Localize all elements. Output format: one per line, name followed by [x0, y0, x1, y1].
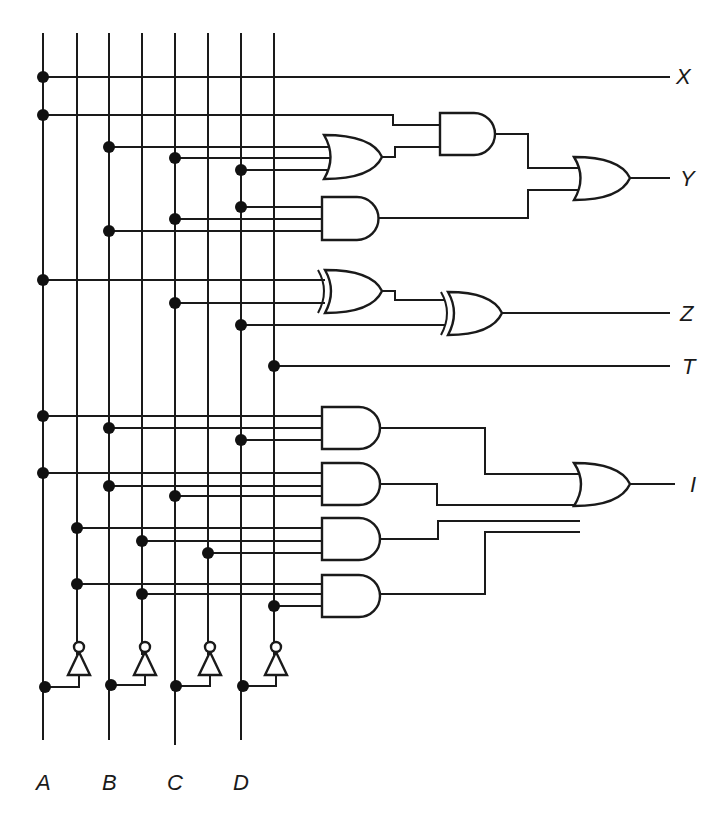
- and-gate-3: [322, 407, 380, 449]
- junction-dot: [39, 681, 51, 693]
- junction-dot: [103, 141, 115, 153]
- junction-dot: [71, 578, 83, 590]
- junction-dot: [103, 422, 115, 434]
- and-gate-6: [322, 575, 380, 617]
- not-gate-d: [265, 652, 287, 675]
- junction-dot: [71, 522, 83, 534]
- wire-xor1-to-xor2: [382, 291, 445, 300]
- junction-dot: [37, 109, 49, 121]
- junction-dot: [103, 480, 115, 492]
- and-gate-2: [322, 197, 379, 240]
- junction-dot: [136, 588, 148, 600]
- xor2-back-arc: [441, 292, 447, 335]
- junction-dot: [235, 164, 247, 176]
- xor-gate-1: [325, 270, 382, 313]
- junction-dot: [103, 225, 115, 237]
- input-label-b: B: [102, 770, 117, 796]
- wire-and3-or4: [380, 428, 580, 474]
- junction-dot: [37, 274, 49, 286]
- output-label-x: X: [676, 64, 691, 90]
- junction-dot: [105, 679, 117, 691]
- junction-dot: [268, 600, 280, 612]
- junctions: [37, 71, 280, 693]
- junction-dot: [37, 71, 49, 83]
- y-section: [43, 113, 670, 240]
- junction-dot: [202, 547, 214, 559]
- i-section: [43, 407, 675, 617]
- not-bubble-d: [271, 642, 281, 652]
- not-bubble-c: [205, 642, 215, 652]
- wire-and2-to-or3: [379, 190, 580, 218]
- input-label-c: C: [167, 770, 183, 796]
- wire-or1-to-and1: [382, 147, 440, 157]
- junction-dot: [169, 152, 181, 164]
- xor-gate-2: [448, 292, 502, 335]
- and-gate-4: [322, 463, 380, 505]
- junction-dot: [37, 467, 49, 479]
- or-gate-3: [574, 157, 630, 200]
- junction-dot: [136, 535, 148, 547]
- output-label-i: I: [690, 472, 696, 498]
- input-bus: [43, 33, 274, 745]
- and-gate-1: [440, 113, 495, 155]
- output-label-t: T: [682, 354, 695, 380]
- junction-dot: [169, 213, 181, 225]
- wire-and6-or4: [380, 532, 580, 594]
- input-label-a: A: [36, 770, 51, 796]
- junction-dot: [268, 360, 280, 372]
- junction-dot: [169, 490, 181, 502]
- not-bubble-b: [140, 642, 150, 652]
- and-gate-5: [322, 518, 380, 560]
- output-label-z: Z: [680, 301, 693, 327]
- wire-and5-or4: [380, 521, 580, 539]
- junction-dot: [170, 680, 182, 692]
- output-label-y: Y: [680, 166, 695, 192]
- not-gate-c: [199, 652, 221, 675]
- z-section: [43, 270, 670, 335]
- junction-dot: [169, 297, 181, 309]
- xor1-back-arc: [318, 270, 324, 313]
- not-gate-b: [134, 652, 156, 675]
- junction-dot: [237, 680, 249, 692]
- or-gate-4: [574, 463, 630, 506]
- wire-and4-or4: [380, 484, 580, 505]
- junction-dot: [235, 434, 247, 446]
- inverters: [43, 642, 287, 687]
- junction-dot: [37, 410, 49, 422]
- junction-dot: [235, 201, 247, 213]
- junction-dot: [235, 319, 247, 331]
- not-bubble-a: [74, 642, 84, 652]
- not-gate-a: [68, 652, 90, 675]
- wire-and1-to-or3: [495, 134, 580, 168]
- or-gate-1: [324, 135, 382, 179]
- input-label-d: D: [233, 770, 249, 796]
- logic-circuit: [0, 0, 727, 821]
